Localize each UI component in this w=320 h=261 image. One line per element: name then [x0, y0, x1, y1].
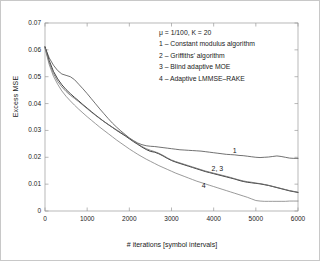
- curve-label-1: 1: [233, 147, 237, 154]
- legend-line-curve-4: 4 – Adaptive LMMSE–RAKE: [159, 73, 255, 84]
- x-axis-label: # iterations [symbol intervals]: [45, 241, 299, 248]
- y-tick-0.07: 0.07: [7, 19, 41, 26]
- y-tick-0.05: 0.05: [7, 73, 41, 80]
- x-tick-0: 0: [25, 215, 65, 222]
- y-tick-0.03: 0.03: [7, 126, 41, 133]
- x-tick-5000: 5000: [236, 215, 276, 222]
- y-tick-0.04: 0.04: [7, 100, 41, 107]
- y-tick-0: 0: [7, 207, 41, 214]
- legend-line-curve-3: 3 – Blind adaptive MOE: [159, 61, 255, 72]
- y-tick-0.02: 0.02: [7, 153, 41, 160]
- legend-text-block: μ = 1/100, K = 20 1 – Constant modulus a…: [159, 27, 255, 84]
- x-tick-2000: 2000: [109, 215, 149, 222]
- legend-line-curve-2: 2 – Griffiths' algorithm: [159, 50, 255, 61]
- curve-label-4: 4: [202, 182, 206, 189]
- x-tick-3000: 3000: [152, 215, 192, 222]
- y-tick-0.01: 0.01: [7, 180, 41, 187]
- figure-container: Excess MSE # iterations [symbol interval…: [0, 0, 320, 261]
- curve-label-2-3: 2, 3: [212, 165, 224, 172]
- x-tick-4000: 4000: [194, 215, 234, 222]
- x-tick-1000: 1000: [67, 215, 107, 222]
- y-tick-0.06: 0.06: [7, 46, 41, 53]
- legend-line-params: μ = 1/100, K = 20: [159, 27, 255, 38]
- x-tick-6000: 6000: [278, 215, 318, 222]
- legend-line-curve-1: 1 – Constant modulus algorithm: [159, 38, 255, 49]
